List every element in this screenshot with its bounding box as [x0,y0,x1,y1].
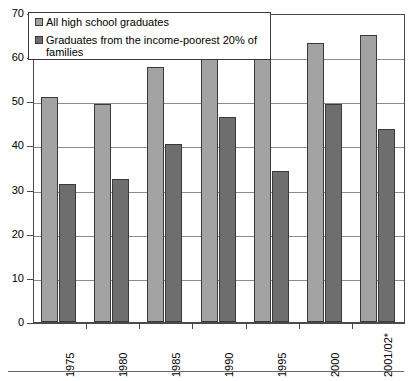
bar-2000-series-0 [307,43,324,322]
bar-1990-series-0 [201,57,218,322]
x-tick-2 [139,324,140,329]
legend-swatch-icon-series-1 [35,36,43,44]
legend-label-series-0: All high school graduates [46,16,169,28]
bar-1980-series-0 [94,104,111,322]
bar-200102-series-1 [378,129,395,322]
y-axis-label-60: 60 [0,52,24,63]
x-tick-1 [86,324,87,329]
y-tick-40 [27,146,33,147]
bar-2000-series-1 [325,104,342,323]
gridline-50 [34,103,404,104]
legend-item-poorest-graduates: Graduates from the income-poorest 20% of… [35,34,266,58]
bar-1995-series-0 [254,50,271,322]
legend-swatch-icon-series-0 [35,18,43,26]
y-tick-30 [27,191,33,192]
x-axis-line [33,323,405,324]
bar-1975-series-0 [41,97,58,322]
y-axis-line [33,14,34,324]
bar-1975-series-1 [59,184,76,322]
y-axis-label-40: 40 [0,140,24,151]
y-axis-label-70: 70 [0,8,24,19]
y-tick-10 [27,279,33,280]
y-tick-50 [27,102,33,103]
y-tick-20 [27,235,33,236]
plot-area [33,14,405,323]
y-axis-label-10: 10 [0,273,24,284]
bar-1985-series-0 [147,67,164,322]
y-axis-label-0: 0 [0,317,24,328]
x-tick-5 [299,324,300,329]
footer-divider [8,371,404,372]
bar-1995-series-1 [272,171,289,322]
bar-200102-series-0 [360,35,377,322]
bar-1980-series-1 [112,179,129,322]
legend-label-series-1: Graduates from the income-poorest 20% of… [46,34,266,58]
y-axis-label-50: 50 [0,96,24,107]
x-tick-3 [192,324,193,329]
y-axis-label-30: 30 [0,185,24,196]
y-axis-labels: 010203040506070 [0,0,26,381]
x-tick-6 [352,324,353,329]
y-axis-label-20: 20 [0,229,24,240]
chart-legend: All high school graduates Graduates from… [28,12,271,60]
x-tick-4 [246,324,247,329]
bar-1990-series-1 [219,117,236,322]
bar-1985-series-1 [165,144,182,322]
legend-item-all-graduates: All high school graduates [35,16,266,28]
